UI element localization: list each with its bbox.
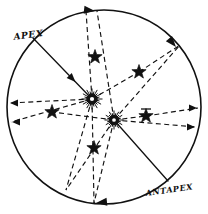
arrow-right-upper <box>189 105 197 112</box>
star-right <box>139 109 153 123</box>
star-left <box>45 105 59 119</box>
sun-secondary-core <box>112 118 116 122</box>
apex-label: APEX <box>12 28 44 42</box>
sun-primary-core <box>90 97 94 101</box>
arrow-right-lower <box>187 124 195 131</box>
dash-sun2-lower-center <box>94 120 114 203</box>
sun-symbol-layer <box>82 89 124 130</box>
dash-sun2-left-star <box>52 112 114 120</box>
star-marker-layer <box>45 50 153 155</box>
apex-ray <box>33 38 92 99</box>
arrow-left-upper <box>10 100 18 107</box>
diagram-canvas: APEXANTAPEX <box>0 0 208 214</box>
arrow-top <box>84 6 96 15</box>
star-apex-antapex-diagram: APEXANTAPEX <box>0 0 208 214</box>
antapex-ray <box>114 120 168 181</box>
dash-sun1-lower-center <box>66 99 92 190</box>
star-upper-right <box>132 65 146 79</box>
antapex-label: ANTAPEX <box>144 181 194 198</box>
star-upper-center <box>88 50 102 64</box>
dash-sun2-bottom-left <box>66 120 114 190</box>
arrow-left-lower <box>12 119 20 126</box>
arrow-bottom <box>96 198 108 207</box>
dash-sun2-lower-right <box>114 120 196 127</box>
